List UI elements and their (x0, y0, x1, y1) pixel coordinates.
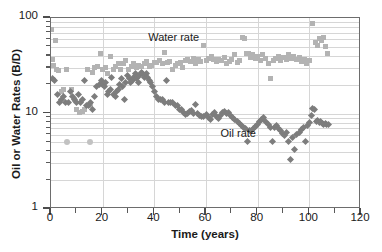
y-minor-tick (46, 31, 51, 32)
data-point (310, 21, 315, 26)
x-gridline (258, 18, 259, 207)
y-minor-tick (46, 127, 51, 128)
y-minor-tick (46, 179, 51, 180)
x-tick-label: 60 (185, 211, 225, 223)
x-minor-tick (334, 208, 335, 213)
data-point (201, 43, 206, 48)
data-point (163, 77, 170, 84)
data-point (81, 77, 88, 84)
y-minor-tick (46, 21, 51, 22)
y-gridline (51, 152, 359, 153)
y-minor-tick (46, 54, 51, 55)
y-tick-label: 10 (25, 105, 38, 117)
data-point (307, 58, 312, 63)
data-point (269, 138, 276, 145)
data-point (98, 51, 103, 56)
data-point (121, 96, 128, 103)
data-point (108, 54, 113, 59)
y-minor-tick (46, 116, 51, 117)
data-point (108, 74, 115, 81)
data-point (123, 58, 128, 63)
data-point (87, 139, 93, 145)
y-major-tick (43, 16, 50, 17)
x-minor-tick (179, 208, 180, 213)
y-gridline (51, 135, 359, 136)
y-minor-tick (46, 162, 51, 163)
data-point (263, 56, 268, 61)
data-point (162, 50, 167, 55)
data-point (242, 36, 247, 41)
data-point (321, 35, 326, 40)
y-gridline (51, 142, 359, 143)
x-tick-label: 40 (133, 211, 173, 223)
data-point (180, 65, 185, 70)
data-point (315, 43, 320, 48)
y-gridline (51, 27, 359, 28)
y-gridline (51, 128, 359, 129)
y-tick-label: 100 (19, 9, 38, 21)
series-label: Water rate (148, 31, 199, 43)
data-point (118, 67, 123, 72)
x-tick-label: 20 (82, 211, 122, 223)
x-minor-tick (282, 208, 283, 213)
data-point (325, 51, 330, 56)
y-minor-tick (46, 26, 51, 27)
x-tick-label: 100 (288, 211, 328, 223)
x-minor-tick (127, 208, 128, 213)
y-major-tick (43, 112, 50, 113)
y-minor-tick (46, 121, 51, 122)
plot-area (50, 17, 360, 208)
data-point (237, 58, 242, 63)
y-gridline (51, 180, 359, 181)
data-point (323, 44, 328, 49)
y-minor-tick (46, 83, 51, 84)
x-gridline (103, 18, 104, 207)
data-point (103, 65, 108, 70)
y-minor-tick (46, 150, 51, 151)
data-point (51, 77, 58, 84)
data-point (287, 156, 294, 163)
data-point (192, 101, 199, 108)
x-axis-title: Time (years) (50, 228, 360, 240)
y-minor-tick (46, 38, 51, 39)
data-point (56, 68, 61, 73)
x-tick-label: 120 (340, 211, 380, 223)
data-point (268, 76, 273, 81)
y-gridline (51, 163, 359, 164)
y-minor-tick (46, 133, 51, 134)
y-gridline (51, 123, 359, 124)
x-gridline (154, 18, 155, 207)
y-minor-tick (46, 45, 51, 46)
data-point (302, 138, 309, 145)
x-minor-tick (230, 208, 231, 213)
y-axis-title: Oil or Water Rates (B/D) (10, 14, 22, 214)
data-point (53, 38, 58, 43)
x-minor-tick (75, 208, 76, 213)
data-point (50, 27, 54, 32)
data-point (232, 52, 237, 57)
y-minor-tick (46, 141, 51, 142)
x-tick-label: 80 (237, 211, 277, 223)
x-tick-label: 0 (30, 211, 70, 223)
data-point (64, 67, 69, 72)
data-point (90, 70, 95, 75)
figure: Oil or Water Rates (B/D) Time (years) 11… (0, 0, 382, 252)
y-gridline (51, 33, 359, 34)
data-point (64, 139, 70, 145)
y-minor-tick (46, 66, 51, 67)
data-point (91, 93, 98, 100)
data-point (89, 106, 96, 113)
data-point (50, 57, 55, 62)
series-label: Oil rate (221, 127, 256, 139)
